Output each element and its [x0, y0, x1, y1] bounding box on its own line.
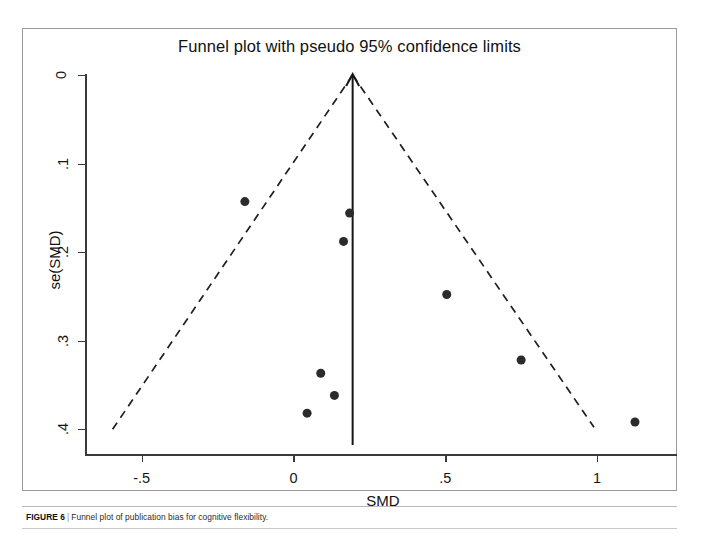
confidence-limit-left — [110, 75, 353, 433]
figure-caption: FIGURE 6|Funnel plot of publication bias… — [22, 506, 677, 529]
data-point — [630, 417, 639, 426]
figure-page: Funnel plot with pseudo 95% confidence l… — [0, 0, 701, 555]
data-point — [345, 209, 354, 218]
data-point — [240, 197, 249, 206]
caption-label: FIGURE 6 — [26, 512, 65, 522]
y-tick-mark — [78, 164, 85, 165]
x-tick-mark — [445, 456, 446, 462]
y-tick-mark — [78, 341, 85, 342]
x-tick-label: -.5 — [133, 470, 150, 486]
x-tick-mark — [293, 456, 294, 462]
y-tick-mark — [78, 75, 85, 76]
y-tick-label: .3 — [55, 335, 71, 347]
x-tick-label: .5 — [439, 470, 451, 486]
data-point — [339, 237, 348, 246]
data-points — [240, 197, 639, 426]
caption-text: Funnel plot of publication bias for cogn… — [71, 512, 268, 522]
data-point — [330, 391, 339, 400]
data-point — [303, 409, 312, 418]
plot-area: -.50.51 0.1.2.3.4 SMD se(SMD) — [87, 75, 679, 445]
y-axis-title: se(SMD) — [46, 230, 63, 289]
caption-rule-bottom — [22, 528, 677, 529]
plot-canvas — [87, 75, 679, 445]
confidence-limit-right — [353, 75, 594, 427]
x-axis-line — [85, 454, 677, 456]
data-point — [442, 290, 451, 299]
caption-text-row: FIGURE 6|Funnel plot of publication bias… — [22, 507, 677, 528]
y-tick-label: .1 — [55, 157, 71, 169]
x-tick-mark — [142, 456, 143, 462]
x-tick-mark — [597, 456, 598, 462]
data-point — [517, 356, 526, 365]
chart-title: Funnel plot with pseudo 95% confidence l… — [23, 37, 676, 56]
data-point — [316, 369, 325, 378]
x-tick-label: 0 — [289, 470, 297, 486]
y-tick-mark — [78, 429, 85, 430]
pooled-effect-reference-line — [346, 74, 359, 445]
y-tick-mark — [78, 252, 85, 253]
x-tick-label: 1 — [593, 470, 601, 486]
figure-frame: Funnel plot with pseudo 95% confidence l… — [22, 28, 677, 491]
y-tick-label: 0 — [53, 71, 69, 79]
y-tick-label: .4 — [55, 423, 71, 435]
